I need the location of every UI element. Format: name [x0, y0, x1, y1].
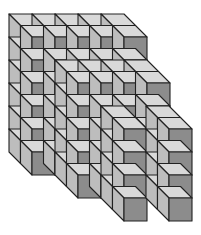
cube-stack-diagram: [0, 0, 201, 235]
front-column-left-cube-front: [124, 198, 147, 221]
front-column-right-cube-front: [169, 198, 192, 221]
